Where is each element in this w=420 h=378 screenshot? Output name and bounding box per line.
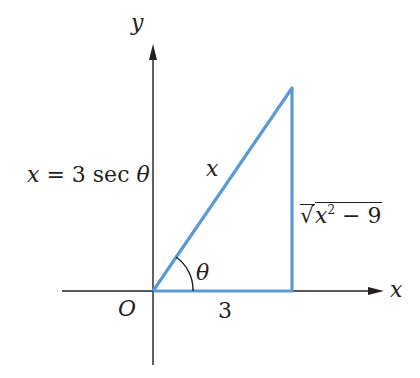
triangle-diagram (0, 0, 420, 378)
equation-label: x = 3 sec θ (27, 164, 150, 186)
right-triangle (153, 88, 292, 291)
origin-label: O (118, 298, 136, 320)
opposite-label: √x2 − 9 (300, 202, 382, 227)
angle-arc (176, 257, 193, 291)
x-axis-label: x (390, 279, 402, 301)
angle-label: θ (196, 262, 209, 284)
adjacent-label: 3 (218, 300, 232, 322)
y-axis-arrow-icon (149, 44, 157, 60)
diagram-canvas: y x O x = 3 sec θ x 3 θ √x2 − 9 (0, 0, 420, 378)
x-axis-arrow-icon (368, 287, 384, 295)
hypotenuse-label: x (206, 158, 218, 180)
y-axis-label: y (131, 12, 143, 34)
